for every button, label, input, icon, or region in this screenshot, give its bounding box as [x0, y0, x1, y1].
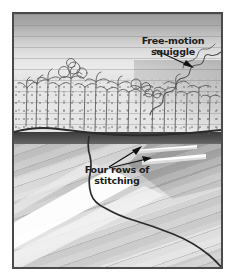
screenshot-root: Free-motion squiggle Four rows of stitch…	[0, 0, 235, 277]
label-line-1: Four rows of	[74, 164, 160, 175]
quilt-photo-frame: Free-motion squiggle Four rows of stitch…	[12, 12, 223, 269]
label-line-2: squiggle	[132, 46, 214, 57]
stitching-rows	[133, 145, 206, 165]
label-free-motion-squiggle: Free-motion squiggle	[132, 35, 214, 57]
label-line-1: Free-motion	[132, 35, 214, 46]
label-line-2: stitching	[74, 175, 160, 186]
label-four-rows-of-stitching: Four rows of stitching	[74, 164, 160, 186]
